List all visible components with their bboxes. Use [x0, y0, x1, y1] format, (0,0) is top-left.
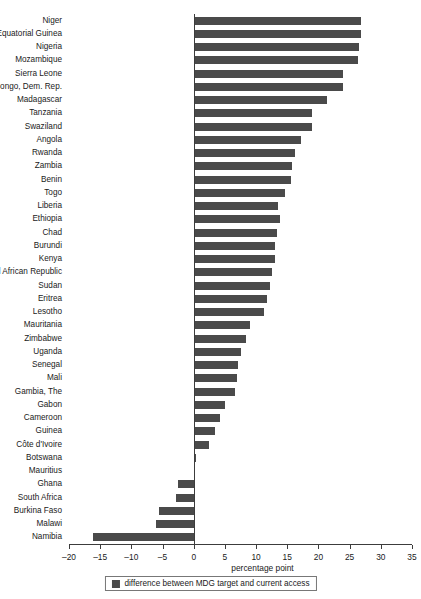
bar — [194, 335, 246, 343]
category-label: Uganda — [0, 345, 65, 358]
category-label: Swaziland — [0, 120, 65, 133]
bar — [194, 321, 251, 329]
category-label: Cameroon — [0, 412, 65, 425]
category-label: Mali — [0, 372, 65, 385]
x-axis — [69, 544, 412, 551]
bar-row — [69, 80, 412, 93]
bar — [93, 533, 193, 541]
bar — [194, 123, 312, 131]
bar-row — [69, 253, 412, 266]
x-axis-tick — [69, 545, 70, 549]
zero-baseline — [194, 14, 195, 544]
bar — [194, 427, 215, 435]
bar — [194, 268, 272, 276]
bar — [159, 507, 193, 515]
category-label: Eritrea — [0, 292, 65, 305]
category-label: Tanzania — [0, 107, 65, 120]
bar-row — [69, 133, 412, 146]
bar — [194, 229, 277, 237]
bar-row — [69, 279, 412, 292]
bar — [194, 215, 280, 223]
category-label: Congo, Dem. Rep. — [0, 80, 65, 93]
category-label: South Africa — [0, 491, 65, 504]
category-label: Ethiopia — [0, 213, 65, 226]
bar — [178, 480, 194, 488]
bar — [194, 414, 220, 422]
x-axis-tick — [318, 545, 319, 549]
bar-row — [69, 120, 412, 133]
bar-row — [69, 213, 412, 226]
bar — [194, 361, 238, 369]
bar — [194, 70, 343, 78]
x-axis-tick — [412, 545, 413, 549]
category-label: Sudan — [0, 279, 65, 292]
bar-row — [69, 531, 412, 544]
bar-row — [69, 292, 412, 305]
category-label: Lesotho — [0, 306, 65, 319]
category-label: Senegal — [0, 359, 65, 372]
bar-row — [69, 504, 412, 517]
bar-row — [69, 239, 412, 252]
category-label: Rwanda — [0, 147, 65, 160]
x-axis-tick-label: 0 — [191, 552, 196, 562]
bar — [194, 401, 225, 409]
bar — [194, 30, 361, 38]
bar — [156, 520, 193, 528]
bar — [194, 441, 210, 449]
x-axis-tick — [381, 545, 382, 549]
category-label: Gabon — [0, 398, 65, 411]
bar-row — [69, 306, 412, 319]
bar — [194, 83, 343, 91]
x-axis-tick — [194, 545, 195, 549]
category-label: Mauritania — [0, 319, 65, 332]
category-label: Nigeria — [0, 41, 65, 54]
bar-row — [69, 491, 412, 504]
category-label: Benin — [0, 173, 65, 186]
bar-row — [69, 27, 412, 40]
category-label: Togo — [0, 186, 65, 199]
legend-label: difference between MDG target and curren… — [124, 579, 309, 588]
x-axis-tick-label: 30 — [376, 552, 385, 562]
bar — [194, 17, 361, 25]
bar-row — [69, 200, 412, 213]
category-label: Niger — [0, 14, 65, 27]
bar-row — [69, 332, 412, 345]
bar-row — [69, 345, 412, 358]
x-axis-tick — [350, 545, 351, 549]
category-label: Zambia — [0, 160, 65, 173]
bar — [194, 189, 285, 197]
x-axis-title-text: percentage point — [231, 563, 293, 573]
chart-legend: difference between MDG target and curren… — [104, 576, 316, 591]
x-axis-tick-label: 25 — [345, 552, 354, 562]
x-axis-tick-label: 15 — [283, 552, 292, 562]
bar-row — [69, 266, 412, 279]
legend-swatch-icon — [111, 580, 119, 588]
bar — [194, 295, 267, 303]
bar-row — [69, 412, 412, 425]
x-axis-tick — [225, 545, 226, 549]
bar-row — [69, 359, 412, 372]
bar-row — [69, 160, 412, 173]
bar-row — [69, 41, 412, 54]
bar-row — [69, 465, 412, 478]
bar-row — [69, 94, 412, 107]
bar-row — [69, 451, 412, 464]
x-axis-tick-label: 35 — [407, 552, 416, 562]
category-label: Zimbabwe — [0, 332, 65, 345]
category-label: Côte d'Ivoire — [0, 438, 65, 451]
x-axis-tick — [163, 545, 164, 549]
x-axis-tick — [131, 545, 132, 549]
category-label: Liberia — [0, 200, 65, 213]
bar-row — [69, 478, 412, 491]
bar-chart: NigerEquatorial GuineaNigeriaMozambiqueS… — [0, 0, 421, 599]
plot-area — [69, 14, 412, 544]
category-label: Angola — [0, 133, 65, 146]
category-label: Botswana — [0, 451, 65, 464]
bar — [194, 242, 275, 250]
category-label: Mozambique — [0, 54, 65, 67]
category-label: Ghana — [0, 478, 65, 491]
x-axis-tick-label: –15 — [93, 552, 107, 562]
bar-row — [69, 385, 412, 398]
bar-row — [69, 438, 412, 451]
category-label: Sierra Leone — [0, 67, 65, 80]
